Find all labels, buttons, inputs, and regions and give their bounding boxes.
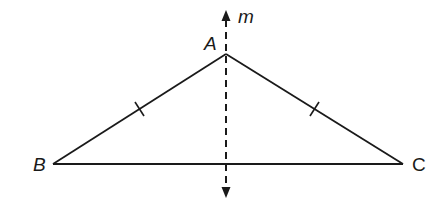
triangle-diagram: A B C m [0,0,444,207]
arrow-up-icon [222,10,231,21]
tick-mark-ab [135,102,144,116]
line-label-m: m [238,6,254,27]
vertex-label-b: B [33,154,46,175]
vertex-label-a: A [203,33,217,54]
vertex-label-c: C [412,154,426,175]
tick-mark-ac [310,102,319,116]
arrow-down-icon [222,187,231,198]
